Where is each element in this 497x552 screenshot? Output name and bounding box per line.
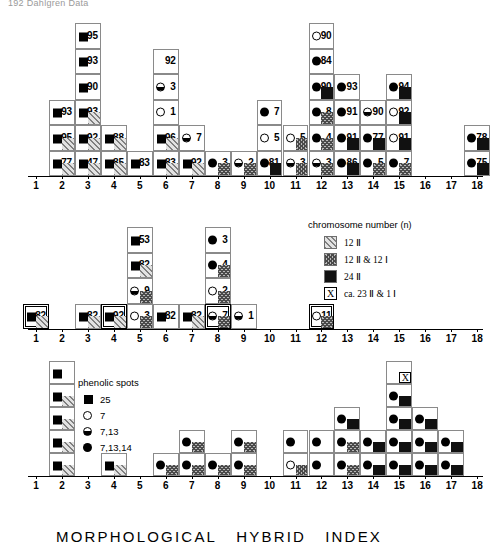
x-axis-line — [28, 476, 483, 477]
chromosome-pattern-patch — [244, 442, 256, 453]
phenolic-filled-circle-icon — [363, 460, 372, 469]
data-cell — [438, 430, 464, 453]
x-axis-tick-label: 17 — [441, 180, 461, 191]
chromosome-pattern-patch — [347, 419, 359, 430]
x-axis-tick — [321, 476, 322, 479]
chromosome-pattern-patch — [114, 138, 126, 150]
x-axis-tick — [244, 476, 245, 479]
x-axis-tick — [88, 176, 89, 179]
x-axis-tick — [114, 476, 115, 479]
chromosome-pattern-swatch — [324, 270, 337, 283]
phenolic-filled-circle-icon — [415, 414, 424, 423]
cell-accession-number: 91 — [347, 107, 358, 117]
x-axis-tick — [373, 176, 374, 179]
chromosome-pattern-patch — [192, 163, 204, 175]
phenolic-filled-circle-icon — [208, 235, 217, 244]
chromosome-pattern-patch — [399, 112, 411, 124]
x-axis-tick — [373, 329, 374, 332]
data-cell: 3 — [205, 151, 231, 177]
x-axis-tick-label: 18 — [467, 480, 487, 491]
cell-accession-number: 83 — [139, 158, 150, 168]
x-axis-tick — [296, 476, 297, 479]
chromosome-pattern-patch — [62, 396, 74, 407]
chromosome-pattern-patch — [218, 291, 230, 303]
phenolic-glyph-swatch — [82, 426, 93, 437]
x-axis-tick — [399, 176, 400, 179]
phenolic-glyph-swatch — [82, 442, 93, 453]
x-axis-tick — [192, 329, 193, 332]
cell-accession-number: 93 — [87, 56, 98, 66]
data-cell: 7 — [205, 304, 231, 330]
x-axis-title-word: HYBRID — [236, 528, 306, 545]
data-cell: 90 — [360, 100, 386, 126]
x-axis-line — [28, 329, 483, 330]
data-cell: 92 — [101, 304, 127, 330]
chromosome-pattern-patch — [477, 138, 489, 150]
data-cell: 5 — [283, 125, 309, 151]
data-cell: 93 — [75, 100, 101, 126]
cell-accession-number: 90 — [87, 82, 98, 92]
x-axis-tick-label: 13 — [337, 333, 357, 344]
data-cell: 3 — [205, 227, 231, 253]
phenolic-filled-circle-icon — [337, 108, 346, 117]
phenolic-filled-circle-icon — [312, 437, 321, 446]
x-axis-tick-label: 1 — [26, 180, 46, 191]
data-cell — [153, 453, 179, 476]
x-axis-tick-label: 1 — [26, 480, 46, 491]
data-cell: 4 — [309, 125, 335, 151]
chromosome-legend-item: Xca. 23 Ⅱ & 1 Ⅰ — [324, 285, 411, 302]
chart-panel-bottom: 123456789101112131415161718X — [0, 366, 497, 516]
x-axis-tick-label: 17 — [441, 480, 461, 491]
chromosome-pattern-patch — [140, 316, 152, 328]
phenolic-filled-circle-icon — [234, 437, 243, 446]
x-marker-icon: X — [399, 372, 411, 383]
phenolic-filled-circle-icon — [337, 82, 346, 91]
chromosome-pattern-patch — [373, 465, 385, 476]
chromosome-pattern-patch — [218, 163, 230, 175]
data-cell — [412, 430, 438, 453]
x-axis-tick-label: 9 — [234, 333, 254, 344]
x-axis-tick-label: 2 — [52, 180, 72, 191]
chromosome-pattern-patch — [36, 316, 48, 328]
data-cell: 75 — [464, 151, 490, 177]
x-axis-tick-label: 15 — [389, 333, 409, 344]
x-axis-tick-label: 5 — [130, 180, 150, 191]
data-cell — [309, 453, 335, 476]
phenolic-open-circle-icon — [389, 108, 398, 117]
chart-panel-middle: 1234567891011121314151617188282923982538… — [0, 212, 497, 344]
data-cell: 91 — [334, 100, 360, 126]
chromosome-pattern-patch — [347, 163, 359, 175]
cell-accession-number: 3 — [222, 235, 227, 245]
cell-accession-number: 5 — [274, 133, 279, 143]
x-axis-tick — [425, 176, 426, 179]
x-axis-tick-label: 8 — [208, 180, 228, 191]
cell-accession-number: 90 — [373, 107, 384, 117]
chromosome-pattern-patch — [347, 138, 359, 150]
data-cell — [179, 430, 205, 453]
x-axis-tick — [270, 176, 271, 179]
chromosome-legend-item: 24 Ⅱ — [324, 268, 411, 285]
data-cell: 93 — [49, 100, 75, 126]
x-axis-tick — [88, 476, 89, 479]
x-axis-tick — [62, 329, 63, 332]
x-axis-tick — [166, 176, 167, 179]
cell-accession-number: 1 — [170, 107, 175, 117]
phenolic-half-circle-icon — [130, 286, 139, 295]
phenolic-square-icon — [105, 461, 114, 470]
phenolic-half-circle-icon — [363, 108, 372, 117]
chromosome-pattern-patch — [218, 265, 230, 277]
data-cell — [386, 430, 412, 453]
phenolic-legend-label: 7,13,14 — [100, 442, 132, 453]
data-cell — [49, 453, 75, 476]
phenolic-filled-circle-icon — [389, 437, 398, 446]
cell-accession-number: 1 — [248, 311, 253, 321]
chromosome-pattern-patch — [192, 316, 204, 328]
data-cell: 88 — [101, 125, 127, 151]
x-axis-tick-label: 14 — [363, 180, 383, 191]
phenolic-legend-label: 25 — [100, 394, 111, 405]
phenolic-legend-title: phenolic spots — [78, 377, 139, 388]
phenolic-filled-circle-icon — [363, 133, 372, 142]
chromosome-pattern-patch — [88, 163, 100, 175]
data-cell: 3 — [283, 151, 309, 177]
x-axis-title-gap — [217, 528, 236, 545]
